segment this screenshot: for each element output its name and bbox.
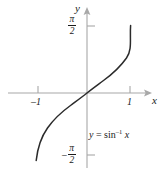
x-tick-label-minus-one: –1	[31, 97, 41, 107]
fraction-denominator: 2	[68, 156, 75, 166]
fraction-negative-pi-over-two: π 2	[68, 144, 76, 166]
x-tick-label-one: 1	[127, 97, 132, 107]
negative-sign: –	[62, 150, 67, 160]
curve-equation-label: y = sin–1 x	[89, 128, 129, 140]
equation-lhs: y	[89, 129, 93, 140]
fraction-pi-over-two: π 2	[68, 15, 76, 37]
x-axis-label: x	[152, 95, 157, 106]
fraction-numerator: π	[69, 15, 76, 25]
equation-exponent: –1	[116, 128, 123, 135]
y-tick-label-pi-over-two: π 2	[68, 15, 76, 37]
equation-function: sin	[104, 129, 116, 140]
equation-operator: =	[96, 129, 102, 140]
equation-argument: x	[125, 129, 129, 140]
plot-canvas	[0, 0, 163, 178]
fraction-denominator: 2	[69, 27, 76, 37]
arcsin-graph-figure: y x –1 1 π 2 – π 2 y = sin–1 x	[0, 0, 163, 178]
y-tick-label-negative-pi-over-two: – π 2	[62, 144, 76, 166]
y-axis-label: y	[75, 3, 80, 14]
fraction-numerator: π	[68, 144, 75, 154]
